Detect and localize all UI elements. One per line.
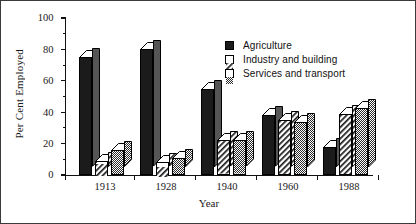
y-tick-label-100: 100 — [38, 12, 54, 23]
x-tick-label-1988: 1988 — [339, 181, 360, 192]
bar-front-face — [294, 122, 307, 175]
bar-front-face — [140, 49, 153, 175]
bar-front-face — [262, 115, 275, 175]
x-tick-origin — [65, 175, 66, 180]
x-tick-label-1940: 1940 — [217, 181, 238, 192]
bar-front-face — [217, 140, 230, 175]
bar-top-face — [140, 42, 153, 49]
bar-serv-1928 — [172, 158, 185, 175]
bar-ind-1940 — [217, 140, 230, 175]
x-tick-label-1928: 1928 — [156, 181, 177, 192]
bar-top-face — [323, 140, 336, 147]
x-tick-label-1913: 1913 — [95, 181, 116, 192]
x-tick-1928 — [195, 175, 196, 180]
chart-legend: AgricultureIndustry and buildingServices… — [225, 39, 345, 81]
bar-front-face — [278, 120, 291, 175]
bar-top-face — [278, 113, 291, 120]
checkered-gray-swatch — [225, 69, 234, 78]
bar-serv-1960 — [294, 122, 307, 175]
y-tick-label-0: 0 — [48, 169, 53, 180]
y-tick-label-20: 20 — [43, 138, 54, 149]
bar-top-face — [95, 154, 108, 161]
bar-front-face — [111, 150, 124, 175]
bar-serv-1940 — [233, 140, 246, 175]
x-tick-1960 — [317, 175, 318, 180]
bar-front-face — [339, 114, 352, 175]
legend-item-2: Services and transport — [225, 67, 345, 80]
legend-label-0: Agriculture — [243, 40, 292, 51]
bar-top-face — [201, 82, 214, 89]
bar-top-face — [217, 133, 230, 140]
bar-side-face — [307, 122, 314, 175]
bar-agri-1960 — [262, 115, 275, 175]
y-axis-title: Per Cent Employed — [7, 1, 31, 186]
bar-top-face — [355, 101, 368, 108]
bar-side-face — [124, 150, 131, 175]
bar-ind-1913 — [95, 161, 108, 175]
bar-ind-1988 — [339, 114, 352, 175]
bar-front-face — [201, 89, 214, 175]
bar-top-face — [111, 143, 124, 150]
y-tick-label-80: 80 — [43, 43, 54, 54]
bar-top-face — [233, 133, 246, 140]
x-tick-label-1960: 1960 — [278, 181, 299, 192]
bar-top-face — [79, 50, 92, 57]
bar-front-face — [79, 57, 92, 175]
bar-agri-1928 — [140, 49, 153, 175]
legend-item-1: Industry and building — [225, 53, 345, 66]
bar-top-face — [262, 108, 275, 115]
y-tick-label-40: 40 — [43, 106, 54, 117]
bar-agri-1913 — [79, 57, 92, 175]
x-tick-1988 — [378, 175, 379, 180]
bar-top-face — [339, 107, 352, 114]
bar-side-face — [185, 158, 192, 175]
legend-label-1: Industry and building — [243, 54, 337, 65]
bar-top-face — [156, 155, 169, 162]
bar-front-face — [355, 108, 368, 176]
bar-ind-1928 — [156, 162, 169, 175]
legend-label-2: Services and transport — [243, 68, 345, 79]
bar-front-face — [233, 140, 246, 175]
x-axis-title: Year — [1, 197, 416, 209]
chart-figure: Per Cent Employed 020406080100 191319281… — [0, 0, 416, 224]
bar-agri-1988 — [323, 147, 336, 175]
bar-top-face — [294, 115, 307, 122]
bar-serv-1913 — [111, 150, 124, 175]
x-tick-1940 — [256, 175, 257, 180]
bar-agri-1940 — [201, 89, 214, 175]
x-axis-title-text: Year — [199, 197, 219, 209]
solid-black-swatch — [225, 41, 234, 50]
bar-front-face — [323, 147, 336, 175]
y-axis-title-text: Per Cent Employed — [13, 49, 25, 139]
legend-item-0: Agriculture — [225, 39, 345, 52]
x-tick-1913 — [134, 175, 135, 180]
bar-side-face — [246, 140, 253, 175]
bar-top-face — [172, 151, 185, 158]
y-tick-label-60: 60 — [43, 75, 54, 86]
bar-ind-1960 — [278, 120, 291, 175]
bar-front-face — [172, 158, 185, 175]
diagonal-hatch-swatch — [225, 55, 234, 64]
bar-front-face — [95, 161, 108, 175]
bar-side-face — [368, 108, 375, 176]
bar-serv-1988 — [355, 108, 368, 176]
